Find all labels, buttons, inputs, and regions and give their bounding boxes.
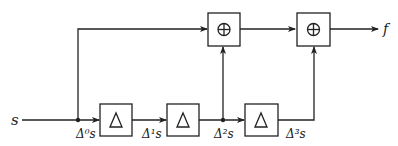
signal-label-d2: Δ²s [213, 127, 234, 141]
signal-label-d1: Δ¹s [141, 127, 162, 141]
input-label: s [11, 111, 19, 129]
block-diagram: s f Δ⁰s Δ¹s Δ²s Δ³s [0, 0, 398, 146]
delta-icon [255, 113, 267, 127]
output-label: f [382, 21, 391, 37]
junction-dot [76, 118, 80, 122]
bypass-wire [78, 29, 207, 120]
delta-icon [177, 113, 189, 127]
junction-dot [221, 118, 225, 122]
signal-label-d0: Δ⁰s [75, 127, 96, 141]
signal-label-d3: Δ³s [285, 127, 306, 141]
delta-block-3 [245, 104, 278, 136]
wire-d3-adder2 [278, 47, 314, 120]
delta-icon [110, 113, 122, 127]
plus-circle-icon [218, 24, 230, 36]
delta-block-2 [167, 104, 199, 136]
delta-block-1 [100, 104, 132, 136]
plus-circle-icon [308, 24, 320, 36]
